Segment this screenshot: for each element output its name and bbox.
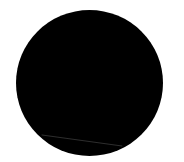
black-circle bbox=[16, 10, 163, 156]
canvas bbox=[0, 0, 184, 162]
